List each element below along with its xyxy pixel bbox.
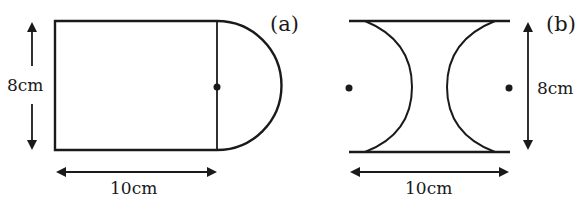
figure-b-width-label: 10cm — [405, 180, 452, 197]
figure-b-height-label: 8cm — [537, 80, 573, 97]
figure-a-outline — [55, 21, 281, 150]
figure-b — [346, 21, 529, 172]
figure-b-left-center-dot — [346, 85, 353, 92]
figure-a-width-label: 10cm — [110, 180, 157, 197]
figure-b-label: (b) — [546, 14, 576, 35]
figure-a — [32, 21, 281, 172]
figure-b-left-arc — [365, 21, 412, 152]
figure-a-center-dot — [214, 84, 221, 91]
figure-a-height-label: 8cm — [7, 77, 43, 94]
figure-b-right-center-dot — [506, 85, 513, 92]
figure-a-label: (a) — [270, 14, 299, 35]
figure-b-right-arc — [447, 21, 495, 152]
